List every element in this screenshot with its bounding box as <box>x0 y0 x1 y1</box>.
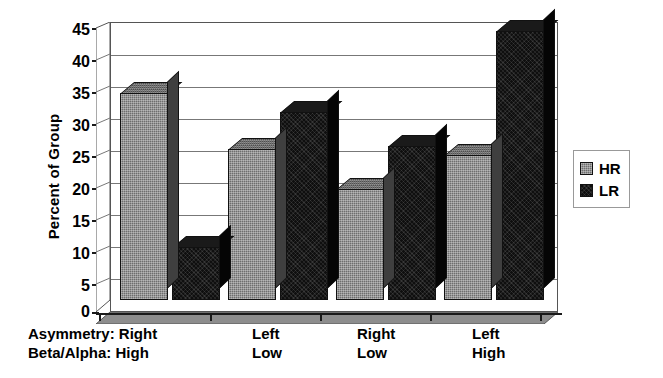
y-tick-label-45: 45 <box>56 22 90 38</box>
x-category-line1: Right <box>357 324 395 343</box>
legend-item-hr: HR <box>580 157 621 179</box>
x-axis-line <box>96 313 562 315</box>
bar-side-face <box>167 71 179 289</box>
bar-side-face <box>383 167 395 289</box>
legend-item-lr: LR <box>580 179 621 201</box>
x-tick-0 <box>99 313 101 321</box>
bar-hr-right-high <box>120 93 168 300</box>
x-category-line1: Left <box>472 324 505 343</box>
y-tick-label-20: 20 <box>56 182 90 198</box>
bar-side-face <box>543 9 555 289</box>
bar-front-face <box>496 31 544 300</box>
y-tick-label-25: 25 <box>56 150 90 166</box>
bar-front-face <box>120 93 168 300</box>
x-category-label-0: Asymmetry: Right Beta/Alpha: High <box>28 324 157 362</box>
bar-hr-right-low <box>336 189 384 300</box>
x-category-line2: Beta/Alpha: High <box>28 343 157 362</box>
bar-side-face <box>491 133 503 289</box>
bar-front-face <box>336 189 384 300</box>
x-tick-3 <box>430 313 432 321</box>
bar-front-face <box>444 155 492 300</box>
bar-side-face <box>219 225 231 289</box>
x-category-line2: Low <box>357 343 395 362</box>
legend-label-lr: LR <box>599 183 619 198</box>
x-tick-1 <box>210 313 212 321</box>
y-tick-label-40: 40 <box>56 54 90 70</box>
bar-front-face <box>228 149 276 300</box>
x-category-label-2: Right Low <box>357 324 395 362</box>
x-category-label-3: Left High <box>472 324 505 362</box>
bar-front-face <box>388 146 436 300</box>
y-tick-label-5: 5 <box>56 278 90 294</box>
bars-layer <box>110 22 558 312</box>
bar-side-face <box>435 124 447 289</box>
x-category-line2: High <box>472 343 505 362</box>
bar-lr-left-high <box>496 31 544 300</box>
plot-left-wall <box>96 22 110 312</box>
y-tick-label-30: 30 <box>56 118 90 134</box>
y-tick-label-35: 35 <box>56 86 90 102</box>
y-tick-label-15: 15 <box>56 214 90 230</box>
y-tick-label-10: 10 <box>56 246 90 262</box>
bar-lr-right-high <box>172 247 220 300</box>
legend-label-hr: HR <box>599 161 621 176</box>
chart-legend: HR LR <box>573 150 630 208</box>
chart-root: Percent of Group 45 40 35 30 25 20 15 10… <box>0 0 663 378</box>
x-category-line2: Low <box>252 343 282 362</box>
x-tick-4 <box>540 313 542 321</box>
bar-side-face <box>327 90 339 289</box>
x-category-label-1: Left Low <box>252 324 282 362</box>
bar-lr-right-low <box>388 146 436 300</box>
x-category-line1: Left <box>252 324 282 343</box>
x-category-line1: Asymmetry: Right <box>28 324 157 343</box>
bar-front-face <box>172 247 220 300</box>
x-tick-2 <box>320 313 322 321</box>
bar-side-face <box>275 127 287 289</box>
legend-swatch-lr-icon <box>580 184 593 197</box>
y-tick-label-0: 0 <box>56 304 90 320</box>
plot-area <box>96 22 558 318</box>
bar-hr-left-low <box>228 149 276 300</box>
bar-hr-left-high <box>444 155 492 300</box>
legend-swatch-hr-icon <box>580 162 593 175</box>
